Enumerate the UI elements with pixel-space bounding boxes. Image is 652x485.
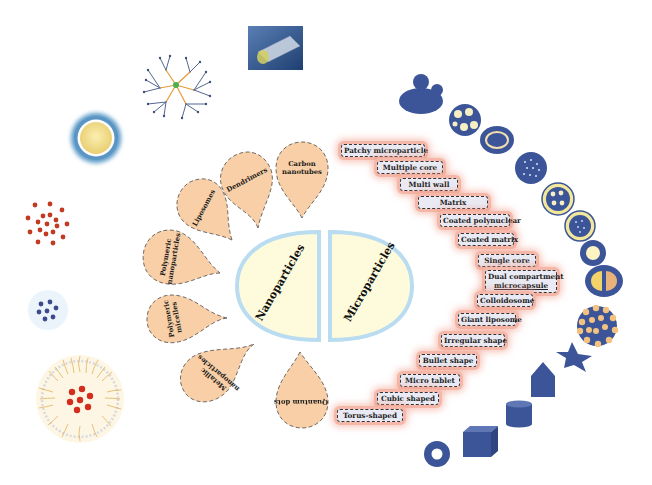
torus-icon: [424, 441, 450, 467]
polymeric-nanoparticle-icon: [26, 202, 70, 246]
drop-polymeric-micelles: [147, 295, 227, 343]
label-colloidosome: Colloidosome: [477, 294, 533, 307]
single-core-icon: [580, 240, 606, 266]
label-irregular-shape: Irregular shape: [441, 334, 505, 347]
label-multiple-core: Multiple core: [377, 161, 443, 174]
label-coated-polynuclear: Coated polynuclear: [440, 214, 510, 227]
label-cubic-shaped: Cubic shaped: [377, 392, 439, 405]
label-giant-liposome: Giant liposome: [458, 313, 516, 326]
cube-icon: [463, 426, 498, 457]
label-coated-matrix: Coated matrix: [458, 233, 514, 246]
quantum-dot-cluster-icon: [28, 290, 68, 330]
polymeric-micelle-icon: [36, 355, 124, 443]
drop-label-carbon-nanotubes: Carbon nanotubes: [278, 160, 326, 176]
multi-wall-icon: [480, 126, 514, 154]
dual-compartment-icon: [585, 265, 623, 297]
drop-label-quantum-dots: Quantum dots: [276, 398, 328, 406]
liposome-icon: [66, 108, 126, 168]
diagram-graphics: [0, 0, 652, 485]
drop-carbon-nanotubes: [276, 142, 328, 218]
label-micro-tablet: Micro tablet: [400, 374, 460, 387]
bullet-shape-icon: [531, 362, 555, 397]
label-torus-shaped: Torus-shaped: [337, 409, 403, 422]
matrix-icon: [515, 152, 547, 184]
label-patchy-microparticle: Patchy microparticle: [341, 144, 425, 157]
patchy-particle-icon: [399, 74, 443, 114]
label-dual-compartment-microcapsule: Dual compartment microcapsule: [485, 270, 557, 293]
dendrimer-icon: [143, 55, 211, 119]
label-multi-wall: Multi wall: [400, 178, 458, 191]
multiple-core-icon: [449, 104, 481, 136]
label-bullet-shape: Bullet shape: [419, 354, 477, 367]
colloidosome-icon: [577, 305, 618, 347]
coated-matrix-icon: [565, 211, 595, 241]
carbon-nanotube-image: [248, 26, 303, 70]
coated-polynuclear-icon: [542, 183, 574, 215]
label-single-core: Single core: [478, 254, 536, 267]
drop-quantum-dots: [276, 352, 328, 428]
irregular-star-icon: [556, 342, 592, 372]
label-matrix: Matrix: [418, 196, 488, 209]
micro-tablet-cylinder-icon: [506, 401, 532, 428]
